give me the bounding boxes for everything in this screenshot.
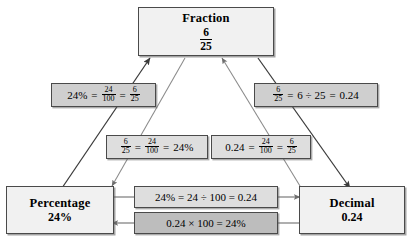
edge-decimal-to-fraction [222, 58, 300, 186]
inline-fraction: 24 100 [259, 138, 273, 156]
label-fraction-to-percent-result: 24% [173, 141, 193, 153]
inline-fraction: 24 100 [102, 86, 116, 104]
fraction-denominator: 25 [200, 39, 212, 53]
inline-fraction: 6 25 [287, 138, 297, 156]
node-decimal-value: 0.24 [342, 211, 363, 224]
node-percentage[interactable]: Percentage 24% [6, 186, 114, 234]
label-fraction-to-decimal-result: 0.24 [340, 89, 359, 101]
node-fraction-value: 6 25 [200, 26, 212, 52]
equals-sign: = [247, 141, 255, 153]
inline-fraction: 6 25 [121, 138, 131, 156]
label-percent-to-decimal[interactable]: 24% = 24 ÷ 100 = 0.24 [134, 186, 278, 208]
node-percentage-title: Percentage [30, 196, 91, 210]
label-decimal-to-percent[interactable]: 0.24 × 100 = 24% [134, 212, 278, 234]
node-fraction[interactable]: Fraction 6 25 [138, 7, 274, 56]
node-decimal-title: Decimal [329, 196, 374, 210]
inline-fraction: 6 25 [130, 86, 140, 104]
inline-fraction: 24 100 [145, 138, 159, 156]
label-fraction-to-decimal[interactable]: 6 25 = 6 ÷ 25 = 0.24 [254, 83, 378, 107]
equals-sign: = [286, 89, 294, 101]
inline-fraction: 6 25 [273, 86, 283, 104]
division-expression: 6 ÷ 25 [297, 89, 325, 101]
label-percent-to-fraction[interactable]: 24% = 24 100 = 6 25 [51, 83, 156, 107]
edge-fraction-to-percentage [112, 58, 185, 186]
equals-sign: = [162, 141, 170, 153]
label-percent-to-fraction-lead: 24% [67, 89, 87, 101]
equals-sign: = [119, 89, 127, 101]
equals-sign: = [276, 141, 284, 153]
edge-fraction-to-decimal [258, 58, 350, 188]
label-fraction-to-percent[interactable]: 6 25 = 24 100 = 24% [106, 135, 208, 159]
node-decimal[interactable]: Decimal 0.24 [299, 186, 405, 234]
label-decimal-to-fraction-lead: 0.24 [225, 141, 244, 153]
conversion-diagram: Fraction 6 25 Percentage 24% Decimal 0.2… [0, 0, 413, 243]
equals-sign: = [328, 89, 336, 101]
equals-sign: = [134, 141, 142, 153]
edge-percentage-to-fraction [62, 58, 150, 188]
node-percentage-value: 24% [48, 211, 72, 224]
fraction-numerator: 6 [203, 26, 209, 38]
node-fraction-title: Fraction [182, 11, 229, 25]
equals-sign: = [90, 89, 98, 101]
label-decimal-to-fraction[interactable]: 0.24 = 24 100 = 6 25 [211, 135, 311, 159]
